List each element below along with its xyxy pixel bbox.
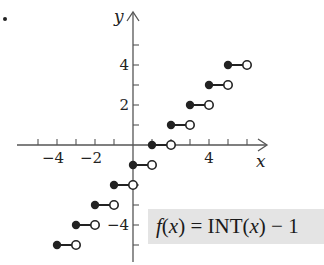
open-endpoint-circle — [224, 81, 232, 89]
open-endpoint-circle — [167, 141, 175, 149]
y-axis-label: y — [113, 6, 124, 26]
formula-x: x — [250, 214, 259, 238]
closed-endpoint-dot — [186, 101, 194, 109]
chart-figure: −4−2442−4xy f(x) = INT(x) − 1 — [0, 0, 324, 265]
closed-endpoint-dot — [129, 161, 137, 169]
open-endpoint-circle — [148, 161, 156, 169]
function-label: f(x) = INT(x) − 1 — [156, 211, 299, 241]
y-tick-label: −4 — [107, 216, 129, 234]
open-endpoint-circle — [129, 181, 137, 189]
closed-endpoint-dot — [205, 81, 213, 89]
open-endpoint-circle — [205, 101, 213, 109]
x-tick-label: −4 — [42, 149, 64, 167]
formula-x: x — [169, 214, 178, 238]
open-endpoint-circle — [110, 201, 118, 209]
closed-endpoint-dot — [72, 221, 80, 229]
y-tick-label: 2 — [119, 96, 129, 114]
x-tick-label: 4 — [204, 149, 214, 167]
closed-endpoint-dot — [110, 181, 118, 189]
closed-endpoint-dot — [148, 141, 156, 149]
formula-part: ( — [162, 214, 169, 238]
open-endpoint-circle — [186, 121, 194, 129]
open-endpoint-circle — [72, 241, 80, 249]
x-tick-label: −2 — [80, 149, 102, 167]
closed-endpoint-dot — [91, 201, 99, 209]
formula-part: ) − 1 — [259, 214, 299, 238]
open-endpoint-circle — [243, 61, 251, 69]
y-tick-label: 4 — [119, 56, 129, 74]
closed-endpoint-dot — [53, 241, 61, 249]
closed-endpoint-dot — [167, 121, 175, 129]
x-axis-label: x — [256, 151, 266, 171]
closed-endpoint-dot — [224, 61, 232, 69]
formula-part: ) = INT( — [178, 214, 249, 238]
open-endpoint-circle — [91, 221, 99, 229]
problem-marker-dot — [3, 17, 7, 21]
